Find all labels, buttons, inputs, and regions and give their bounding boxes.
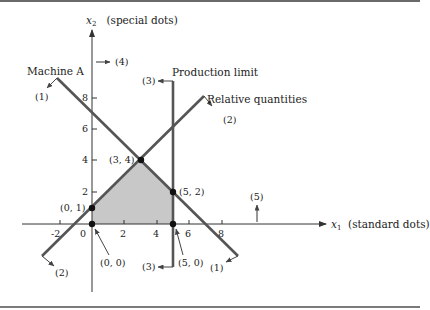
vertex-label-0-0: (0, 0): [100, 258, 126, 268]
vertex-label-0-1: (0, 1): [60, 203, 86, 213]
x-tick-label: 4: [153, 229, 159, 239]
production-limit-label: Production limit: [172, 67, 258, 78]
x-tick-label: 8: [218, 229, 224, 239]
production-limit-marker-top: (3): [142, 76, 155, 86]
relative-quantities-arrow-bottom: [42, 256, 54, 266]
x-axis-subscript: 1: [337, 224, 341, 232]
x-axis-label: (standard dots): [348, 218, 430, 230]
y-axis-title: x2 (special dots): [86, 15, 178, 28]
y-tick-label: 6: [82, 124, 88, 134]
x-axis-title: x1 (standard dots): [331, 219, 430, 232]
y-tick-label: 8: [82, 93, 88, 103]
vertex-label-3-4: (3, 4): [109, 155, 135, 165]
vertex-label-5-0: (5, 0): [178, 258, 204, 268]
relative-quantities-marker-bottom: (2): [55, 268, 68, 278]
feasible-region: [92, 160, 173, 224]
origin-leader: [95, 229, 109, 255]
vertex-label-5-2: (5, 2): [179, 187, 205, 197]
x-tick-label: 2: [120, 229, 126, 239]
machine-a-marker-bottom: (1): [210, 263, 223, 273]
y-tick-label: 4: [82, 155, 88, 165]
y-axis-subscript: 2: [92, 20, 96, 28]
constraint-4-marker: (4): [115, 57, 128, 67]
relative-quantities-label: Relative quantities: [207, 94, 307, 105]
x-tick-label: 6: [185, 229, 191, 239]
y-tick-label: 2: [82, 187, 88, 197]
machine-a-arrow-top: [47, 78, 57, 88]
machine-a-arrow-bottom: [226, 256, 238, 262]
x-tick-label: 0: [80, 229, 86, 239]
production-limit-marker-bottom: (3): [142, 262, 155, 272]
constraint-5-marker: (5): [250, 192, 263, 202]
machine-a-label: Machine A: [27, 66, 84, 77]
relative-quantities-marker-top: (2): [223, 115, 236, 125]
machine-a-marker-top: (1): [35, 92, 48, 102]
y-axis-label: (special dots): [106, 14, 177, 26]
vertex-5-0-leader: [176, 229, 183, 255]
x-tick-label: -2: [51, 229, 60, 239]
